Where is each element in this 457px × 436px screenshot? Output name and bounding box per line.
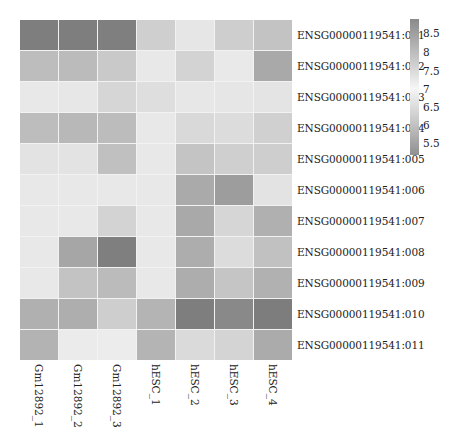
column-label-text: Gm12892_2 xyxy=(72,364,84,434)
column-label: hESC_2 xyxy=(175,364,214,434)
heatmap-cell xyxy=(137,237,175,267)
column-label: hESC_3 xyxy=(214,364,253,434)
row-label: ENSG00000119541:010 xyxy=(297,298,407,329)
heatmap-cell xyxy=(98,113,136,143)
heatmap-cell xyxy=(137,268,175,298)
heatmap-cell xyxy=(254,144,292,174)
heatmap-cell xyxy=(254,330,292,360)
colorbar-tick-label: 6 xyxy=(423,119,430,131)
heatmap-cell xyxy=(98,144,136,174)
heatmap-cell xyxy=(20,268,58,298)
heatmap-cell xyxy=(137,20,175,50)
colorbar-tick-label: 7 xyxy=(423,83,430,95)
heatmap-cell xyxy=(137,82,175,112)
column-label: hESC_4 xyxy=(253,364,292,434)
heatmap-cell xyxy=(20,299,58,329)
heatmap-cell xyxy=(20,113,58,143)
heatmap-cell xyxy=(176,113,214,143)
column-label-text: hESC_1 xyxy=(150,364,162,434)
heatmap-cell xyxy=(254,237,292,267)
heatmap-cell xyxy=(59,144,97,174)
heatmap-cell xyxy=(176,330,214,360)
colorbar-tick-label: 8.5 xyxy=(423,27,440,39)
heatmap-cell xyxy=(176,175,214,205)
heatmap-cell xyxy=(98,175,136,205)
heatmap-cell xyxy=(59,20,97,50)
heatmap-cell xyxy=(215,82,253,112)
heatmap-cell xyxy=(20,144,58,174)
heatmap-cell xyxy=(59,113,97,143)
heatmap-cell xyxy=(215,51,253,81)
heatmap-cell xyxy=(176,299,214,329)
heatmap-cell xyxy=(215,20,253,50)
heatmap-cell xyxy=(215,113,253,143)
heatmap-cell xyxy=(137,113,175,143)
heatmap-cell xyxy=(59,82,97,112)
heatmap-cell xyxy=(59,268,97,298)
colorbar-tick-label: 8 xyxy=(423,46,430,58)
heatmap-cell xyxy=(20,20,58,50)
heatmap-cell xyxy=(176,206,214,236)
heatmap-cell xyxy=(215,299,253,329)
row-label: ENSG00000119541:007 xyxy=(297,205,407,236)
colorbar-ticks: 8.587.576.565.5 xyxy=(423,19,457,155)
colorbar-tick-label: 5.5 xyxy=(423,137,440,149)
heatmap-cell xyxy=(254,51,292,81)
column-label-text: Gm12892_3 xyxy=(111,364,123,434)
heatmap-cell xyxy=(254,206,292,236)
column-label: Gm12892_1 xyxy=(20,364,59,434)
colorbar-tick-label: 7.5 xyxy=(423,65,440,77)
heatmap-cell xyxy=(20,206,58,236)
heatmap-cell xyxy=(59,175,97,205)
heatmap-cell xyxy=(59,237,97,267)
heatmap-cell xyxy=(215,268,253,298)
heatmap-cell xyxy=(137,206,175,236)
heatmap-cell xyxy=(176,20,214,50)
heatmap-grid xyxy=(20,20,292,360)
heatmap-cell xyxy=(215,206,253,236)
heatmap-cell xyxy=(215,237,253,267)
heatmap-cell xyxy=(254,113,292,143)
heatmap-cell xyxy=(20,82,58,112)
heatmap-cell xyxy=(254,299,292,329)
heatmap-cell xyxy=(215,330,253,360)
column-labels: Gm12892_1Gm12892_2Gm12892_3hESC_1hESC_2h… xyxy=(20,364,292,434)
row-label: ENSG00000119541:009 xyxy=(297,267,407,298)
colorbar xyxy=(410,19,419,155)
heatmap-cell xyxy=(59,206,97,236)
column-label-text: Gm12892_1 xyxy=(33,364,45,434)
heatmap-cell xyxy=(176,82,214,112)
heatmap-cell xyxy=(215,144,253,174)
heatmap-cell xyxy=(98,51,136,81)
row-label: ENSG00000119541:002 xyxy=(297,51,407,82)
heatmap-cell xyxy=(176,51,214,81)
heatmap-cell xyxy=(59,51,97,81)
colorbar-tick-label: 6.5 xyxy=(423,101,440,113)
heatmap-cell xyxy=(98,299,136,329)
row-label: ENSG00000119541:005 xyxy=(297,144,407,175)
heatmap-cell xyxy=(254,20,292,50)
heatmap-cell xyxy=(215,175,253,205)
heatmap-cell xyxy=(20,330,58,360)
column-label: Gm12892_2 xyxy=(59,364,98,434)
column-label-text: hESC_4 xyxy=(267,364,279,434)
heatmap-cell xyxy=(254,268,292,298)
heatmap-cell xyxy=(176,268,214,298)
heatmap-cell xyxy=(137,299,175,329)
heatmap-cell xyxy=(176,144,214,174)
row-label: ENSG00000119541:001 xyxy=(297,20,407,51)
heatmap-cell xyxy=(98,82,136,112)
column-label: hESC_1 xyxy=(137,364,176,434)
heatmap-cell xyxy=(98,206,136,236)
heatmap-cell xyxy=(137,51,175,81)
row-label: ENSG00000119541:006 xyxy=(297,175,407,206)
heatmap-cell xyxy=(254,175,292,205)
heatmap-cell xyxy=(59,330,97,360)
heatmap-cell xyxy=(20,175,58,205)
heatmap-cell xyxy=(137,175,175,205)
row-label: ENSG00000119541:003 xyxy=(297,82,407,113)
heatmap-cell xyxy=(20,51,58,81)
heatmap-cell xyxy=(137,144,175,174)
heatmap-cell xyxy=(98,268,136,298)
row-label: ENSG00000119541:008 xyxy=(297,236,407,267)
